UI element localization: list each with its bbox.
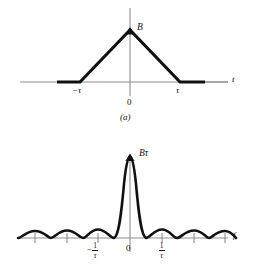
figure-container: B −τ τ 0 t (a)	[0, 0, 257, 270]
x-tick-label-negative-tau: −τ	[72, 86, 81, 95]
fraction-numerator: 1	[92, 242, 98, 250]
x-axis-label-f: f	[233, 231, 236, 240]
subfigure-caption-a: (a)	[120, 112, 131, 122]
panel-time-domain: B −τ τ 0 t (a)	[0, 0, 257, 132]
peak-amplitude-label-b: Bτ	[139, 149, 148, 159]
panel-frequency-domain: Bτ − 1 τ 1 τ 0 f	[0, 132, 257, 270]
x-tick-label-positive-one-over-tau: 1 τ	[158, 242, 165, 259]
fraction-minus-sign: −	[87, 246, 92, 255]
x-tick-label-positive-tau: τ	[176, 86, 179, 95]
peak-amplitude-label-a: B	[137, 23, 143, 33]
origin-label-a: 0	[127, 98, 132, 107]
fraction-stack: 1 τ	[159, 242, 165, 259]
triangular-pulse-curve	[57, 30, 205, 82]
fraction-numerator: 1	[159, 242, 165, 250]
fraction-stack: 1 τ	[92, 242, 98, 259]
fraction-denominator: τ	[159, 252, 164, 260]
sinc-squared-curve	[18, 157, 236, 239]
origin-label-b: 0	[126, 244, 131, 253]
x-tick-label-negative-one-over-tau: − 1 τ	[87, 242, 98, 259]
peak-marker-arrowhead	[126, 154, 135, 162]
x-axis-label-t: t	[232, 75, 235, 84]
fraction-denominator: τ	[93, 252, 98, 260]
peak-marker-arrowhead	[126, 27, 135, 35]
